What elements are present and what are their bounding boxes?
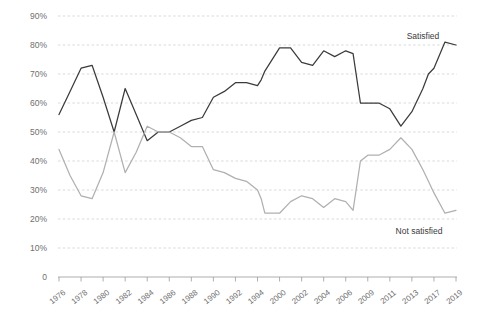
x-axis-tick-label: 1990 (202, 288, 222, 306)
x-axis-tick-label: 2006 (334, 288, 354, 306)
x-axis-tick-label: 1984 (136, 288, 156, 306)
y-axis-tick-label: 90% (30, 11, 47, 21)
y-axis-tick-label: 60% (30, 98, 47, 108)
gridlines-group (58, 16, 457, 248)
y-axis-tick-label: 40% (30, 156, 47, 166)
x-axis-tick-label: 2002 (290, 288, 310, 306)
series-lines-group (59, 42, 456, 213)
x-axis-tick-label: 2011 (379, 288, 399, 306)
x-axis-tick-label: 1978 (70, 288, 90, 306)
y-axis-tick-label: 80% (30, 40, 47, 50)
series-inline-labels: SatisfiedNot satisfied (396, 31, 443, 236)
y-axis-tick-label: 70% (30, 69, 47, 79)
y-axis-tick-label: 50% (30, 127, 47, 137)
y-axis-tick-label: 10% (30, 243, 47, 253)
y-axis-tick-label: 30% (30, 185, 47, 195)
x-axis-tick-label: 2004 (312, 288, 332, 306)
x-axis-tick-labels: 1976197819801982198419861988199019921994… (48, 288, 465, 306)
series-label-not-satisfied: Not satisfied (396, 226, 443, 236)
y-axis-tick-label: 20% (30, 214, 47, 224)
x-axis-tick-label: 2013 (401, 288, 421, 306)
x-axis-tick-label: 1980 (92, 288, 112, 306)
x-axis-tick-label: 1994 (246, 288, 266, 306)
series-line-not-satisfied (59, 126, 456, 213)
series-label-satisfied: Satisfied (407, 31, 440, 41)
series-line-satisfied (59, 42, 456, 141)
x-axis-tick-label: 1992 (224, 288, 244, 306)
x-axis-tick-label: 1976 (48, 288, 68, 306)
x-axis-tick-label: 2017 (423, 288, 443, 306)
x-axis-tick-label: 2019 (445, 288, 465, 306)
x-axis-tick-label: 1982 (114, 288, 134, 306)
y-axis-tick-labels: 90%80%70%60%50%40%30%20%10%0 (30, 11, 47, 282)
chart-canvas: 90%80%70%60%50%40%30%20%10%0 19761978198… (0, 0, 483, 322)
y-axis-tick-label: 0 (42, 272, 47, 282)
line-chart: 90%80%70%60%50%40%30%20%10%0 19761978198… (0, 0, 483, 322)
x-axis-tick-label: 1988 (180, 288, 200, 306)
x-axis-tick-label: 2009 (356, 288, 376, 306)
x-axis (58, 277, 457, 282)
x-axis-tick-label: 1986 (158, 288, 178, 306)
x-axis-tick-label: 2000 (268, 288, 288, 306)
